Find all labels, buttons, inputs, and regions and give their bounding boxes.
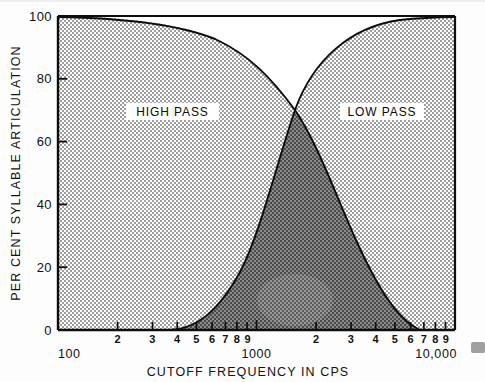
x-tick-300: 3	[149, 333, 155, 345]
plot-area	[58, 16, 455, 330]
x-tick-5000: 5	[392, 333, 398, 345]
x-tick-4000: 4	[372, 333, 379, 345]
high-pass-annotation: HIGH PASS	[126, 103, 219, 120]
x-tick-600: 6	[209, 333, 215, 345]
x-decade-10000: 10,000	[415, 347, 457, 361]
low-pass-annotation: LOW PASS	[340, 103, 424, 120]
x-tick-2000: 2	[313, 333, 319, 345]
x-tick-500: 5	[193, 333, 199, 345]
y-tick-100: 100	[29, 9, 52, 24]
scan-artifact-right	[471, 342, 485, 353]
x-tick-7000: 7	[421, 333, 427, 345]
low-pass-annotation-text: LOW PASS	[348, 105, 417, 119]
high-pass-annotation-text: HIGH PASS	[136, 105, 209, 119]
x-decade-1000: 1000	[241, 347, 271, 361]
x-decade-100: 100	[58, 347, 81, 361]
y-tick-80: 80	[37, 71, 52, 86]
x-tick-3000: 3	[348, 333, 354, 345]
x-tick-800: 8	[234, 333, 240, 345]
x-tick-9000: 9	[443, 333, 449, 345]
x-tick-200: 2	[114, 333, 120, 345]
y-tick-0: 0	[44, 323, 52, 338]
x-tick-6000: 6	[407, 333, 413, 345]
y-axis-tick-labels: 0 20 40 60 80 100	[29, 9, 52, 338]
x-tick-400: 4	[174, 333, 181, 345]
y-axis-title: PER CENT SYLLABLE ARTICULATION	[9, 45, 23, 300]
figure-canvas: 0 20 40 60 80 100	[0, 0, 485, 382]
y-tick-40: 40	[37, 197, 52, 212]
x-axis-minor-tick-labels: 2 3 4 5 6 7 8 9 2 3 4 5 6 7 8 9	[114, 333, 449, 345]
y-tick-60: 60	[37, 134, 52, 149]
y-tick-20: 20	[37, 260, 52, 275]
x-axis-title: CUTOFF FREQUENCY IN CPS	[147, 365, 350, 379]
x-tick-8000: 8	[432, 333, 438, 345]
x-tick-700: 7	[222, 333, 228, 345]
articulation-crossover-chart: 0 20 40 60 80 100	[0, 0, 485, 382]
x-axis-decade-labels: 100 1000 10,000	[58, 347, 457, 361]
x-tick-900: 9	[244, 333, 250, 345]
